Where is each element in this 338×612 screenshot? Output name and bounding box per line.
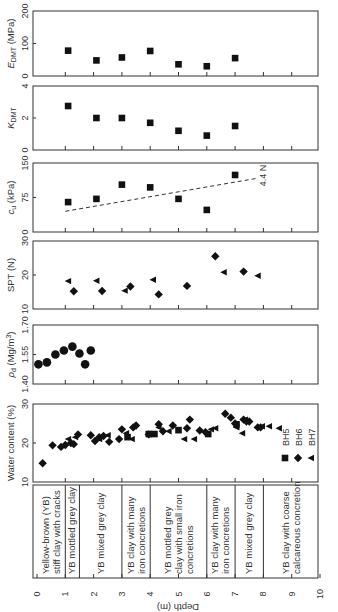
panel-kdmt: 024KDMT <box>5 83 318 152</box>
y-axis-label: KDMT <box>5 107 17 129</box>
diamond-marker <box>186 415 194 423</box>
panel-rhod: 1.401.551.70ρd (Mg/m3) <box>5 316 318 393</box>
series-bh5 <box>124 421 240 440</box>
y-tick-label: 0 <box>20 73 30 78</box>
soil-layer-label: YB mottled grey <box>162 506 173 574</box>
panel-wc: 102030Water content (%)BH5BH6BH7 <box>5 399 318 487</box>
square-marker <box>204 132 211 139</box>
circle-marker <box>51 350 60 359</box>
depth-tick-label: 7 <box>230 591 240 596</box>
series-bh7 <box>65 269 261 294</box>
panel-spt: 102030SPT (N) <box>5 236 318 314</box>
depth-tick-label: 9 <box>287 591 297 596</box>
depth-tick-label: 0 <box>32 591 42 596</box>
legend-label: BH5 <box>281 428 291 446</box>
diamond-marker <box>87 431 95 439</box>
soil-profile-chart: 0100200EDMT (MPa)024KDMT075150cu (kPa)4.… <box>0 0 338 612</box>
panel-frame <box>33 86 318 150</box>
soil-layer-label: YB clay with many <box>209 496 220 574</box>
triangle-marker <box>65 278 72 284</box>
y-tick-label: 0 <box>20 229 30 234</box>
y-axis-label: SPT (N) <box>5 258 16 292</box>
legend: BH5BH6BH7 <box>281 428 317 462</box>
diamond-marker <box>70 287 78 295</box>
y-tick-label: 1.55 <box>20 346 30 364</box>
soil-profile: Yellow-brown (YB)stiff clay with cracksY… <box>32 482 325 612</box>
series-dmt <box>65 103 239 139</box>
depth-tick-label: 3 <box>117 591 127 596</box>
square-marker <box>93 196 100 203</box>
square-marker <box>93 57 100 64</box>
series-bh6 <box>38 410 264 468</box>
soil-layer-label: iron concretions <box>220 507 231 574</box>
square-marker <box>65 47 72 54</box>
soil-layer-label: calcareous concretion <box>291 482 302 574</box>
y-axis-label: EDMT (MPa) <box>5 18 17 68</box>
depth-tick-label: 4 <box>145 591 155 596</box>
diamond-marker <box>98 287 106 295</box>
y-tick-label: 150 <box>20 155 30 170</box>
y-tick-label: 20 <box>20 270 30 280</box>
triangle-marker <box>191 436 198 442</box>
y-tick-label: 0 <box>20 147 30 152</box>
depth-tick-label: 1 <box>60 591 70 596</box>
series-cu <box>65 172 239 214</box>
square-marker <box>175 61 182 68</box>
depth-tick-label: 5 <box>174 591 184 596</box>
diamond-marker <box>239 267 247 275</box>
y-tick-label: 100 <box>20 36 30 51</box>
diamond-marker <box>183 424 191 432</box>
circle-marker <box>75 349 84 358</box>
y-tick-label: 30 <box>20 399 30 409</box>
trendline <box>65 178 257 211</box>
square-marker <box>232 172 239 179</box>
y-tick-label: 10 <box>20 477 30 487</box>
circle-marker <box>60 346 69 355</box>
circle-marker <box>34 360 43 369</box>
panel-cu: 075150cu (kPa)4.4 N <box>5 155 318 234</box>
triangle-marker <box>308 455 315 461</box>
square-marker <box>119 181 126 188</box>
soil-layer-label: YB mixed grey clay <box>243 492 254 574</box>
square-marker <box>147 48 154 55</box>
triangle-marker <box>150 277 157 283</box>
soil-layer-label: iron concretions <box>136 507 147 574</box>
soil-layer-label: clay with small iron <box>173 494 184 574</box>
panel-edmt: 0100200EDMT (MPa) <box>5 3 318 78</box>
y-axis-label: ρd (Mg/m3) <box>5 332 17 379</box>
square-marker <box>147 184 154 191</box>
y-tick-label: 1.40 <box>20 375 30 393</box>
y-tick-label: 75 <box>20 192 30 202</box>
soil-layer-label: Yellow-brown (YB) <box>40 496 51 574</box>
diamond-marker <box>115 435 123 443</box>
soil-layer-label: stiff clay with cracks <box>51 490 62 574</box>
triangle-marker <box>239 430 246 436</box>
square-marker <box>175 427 182 434</box>
diamond-marker <box>211 252 219 260</box>
y-axis-label: cu (kPa) <box>5 181 17 215</box>
series-bh6 <box>70 252 248 298</box>
square-marker <box>119 54 126 61</box>
square-marker <box>232 123 239 130</box>
legend-label: BH6 <box>294 428 304 446</box>
soil-layer-label: YB clay with coarse <box>280 491 291 574</box>
series-dmt <box>65 47 239 69</box>
trendline-label: 4.4 N <box>258 165 268 187</box>
y-tick-label: 2 <box>20 115 30 120</box>
depth-tick-label: 2 <box>89 591 99 596</box>
triangle-marker <box>121 287 128 293</box>
legend-label: BH7 <box>307 428 317 446</box>
square-marker <box>204 207 211 214</box>
circle-marker <box>68 342 77 351</box>
x-axis-label: Depth (m) <box>157 602 199 612</box>
triangle-marker <box>254 272 260 278</box>
y-tick-label: 200 <box>20 3 30 18</box>
y-tick-label: 30 <box>20 236 30 246</box>
square-marker <box>147 120 154 127</box>
y-axis-label: Water content (%) <box>5 405 16 481</box>
triangle-marker <box>266 423 273 429</box>
diamond-marker <box>105 438 113 446</box>
diamond-marker <box>154 290 162 298</box>
soil-layer-label: YB clay with many <box>125 496 136 574</box>
circle-marker <box>86 346 95 355</box>
